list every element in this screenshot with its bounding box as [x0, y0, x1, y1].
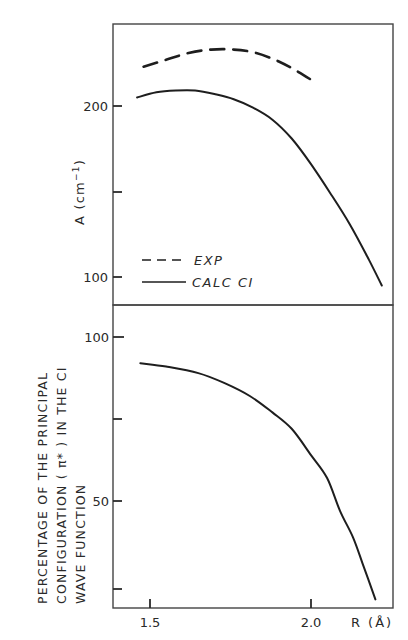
svg-text:A (cm−1): A (cm−1)	[71, 159, 87, 225]
figure: 200 100 100 50 1.5 2.0 R (Å) A (cm−1) PE…	[0, 0, 408, 640]
bottom-panel-frame	[113, 305, 393, 608]
bottom-y-axis: 100 50	[84, 330, 124, 589]
x-axis: 1.5 2.0 R (Å)	[140, 599, 393, 630]
bottom-ylabel-line1: PERCENTAGE OF THE PRINCIPAL	[35, 372, 50, 604]
bottom-y-axis-title: PERCENTAGE OF THE PRINCIPAL CONFIGURATIO…	[35, 366, 88, 604]
series-exp-line	[144, 49, 318, 84]
legend-exp-label: EXP	[194, 253, 223, 268]
series-calc-ci-top-line	[137, 90, 382, 285]
x-axis-label: R (Å)	[351, 615, 393, 630]
x-tick-1-5: 1.5	[140, 615, 161, 630]
bottom-tick-50: 50	[92, 494, 109, 509]
bottom-tick-100: 100	[84, 330, 109, 345]
bottom-ylabel-line3: WAVE FUNCTION	[73, 484, 88, 604]
top-y-axis: 200 100	[83, 99, 122, 285]
x-tick-2-0: 2.0	[301, 615, 322, 630]
top-tick-100: 100	[83, 270, 108, 285]
top-y-axis-title: A (cm−1)	[71, 159, 87, 225]
legend: EXP CALC CI	[142, 253, 254, 290]
top-panel-frame	[113, 24, 393, 305]
series-calc-ci-bottom-line	[140, 363, 375, 599]
top-tick-200: 200	[83, 99, 108, 114]
bottom-ylabel-line2: CONFIGURATION ( π* ) IN THE CI	[54, 366, 69, 604]
legend-calc-label: CALC CI	[192, 275, 254, 290]
